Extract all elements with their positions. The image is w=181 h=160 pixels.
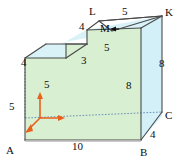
geometry-figure: A B C K L M 10 5 5 4 3 5 8 8 5 4 4 <box>0 0 181 160</box>
face-front-lshape <box>25 28 141 140</box>
solid-drawing <box>0 0 181 160</box>
face-right-side <box>141 16 162 124</box>
